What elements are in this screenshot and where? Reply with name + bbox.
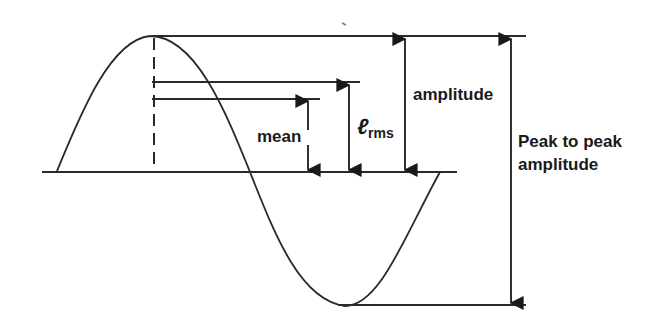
amplitude-label: amplitude [413, 85, 493, 104]
scan-artifact-mark [342, 23, 346, 25]
peak-to-peak-label-line1: Peak to peak [518, 132, 622, 151]
waveform-diagram: mean ℓ rms amplitude Peak to peak amplit… [0, 0, 662, 334]
rms-subscript-label: rms [368, 125, 394, 141]
mean-label: mean [257, 127, 301, 146]
peak-to-peak-label-line2: amplitude [518, 155, 598, 174]
